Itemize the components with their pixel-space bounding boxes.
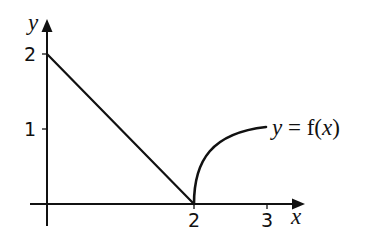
- function-line-segment: [47, 54, 194, 204]
- y-axis-arrow-icon: [42, 19, 53, 32]
- curve-label-eq: = f(: [282, 115, 322, 140]
- y-axis-label: y: [26, 10, 39, 35]
- function-graph: 2 1 2 3 y x y = f(x): [0, 0, 380, 239]
- curve-label-close: ): [332, 115, 340, 140]
- y-tick-label-2: 2: [24, 43, 36, 65]
- curve-label-x: x: [321, 115, 333, 140]
- x-tick-label-3: 3: [261, 209, 273, 231]
- x-tick-label-2: 2: [188, 209, 200, 231]
- function-curve-segment: [194, 127, 266, 204]
- curve-label: y = f(x): [270, 115, 340, 140]
- curve-label-y: y: [270, 115, 283, 140]
- x-axis-label: x: [290, 204, 302, 229]
- y-tick-label-1: 1: [24, 118, 36, 140]
